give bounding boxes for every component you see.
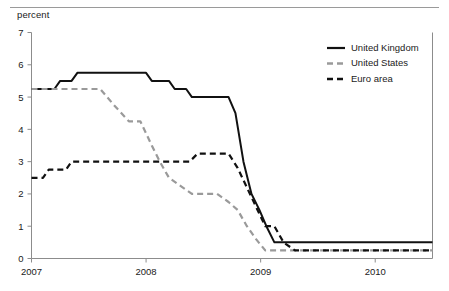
y-axis-tick-label: 6 <box>18 59 23 70</box>
x-axis-tick-label: 2009 <box>250 266 271 277</box>
y-axis-tick-label: 1 <box>18 221 23 232</box>
series-line <box>32 154 433 251</box>
legend-label: United States <box>351 57 408 68</box>
y-axis-tick-label: 3 <box>18 156 23 167</box>
y-axis-tick-group: 01234567 <box>18 27 31 264</box>
legend-label: Euro area <box>351 73 393 84</box>
y-axis-tick-label: 7 <box>18 27 23 38</box>
y-axis-tick-label: 4 <box>18 124 23 135</box>
x-axis-tick-group: 2007200820092010 <box>21 259 386 277</box>
x-axis-tick-label: 2010 <box>365 266 386 277</box>
chart-legend: United KingdomUnited StatesEuro area <box>327 42 419 84</box>
y-axis-tick-label: 0 <box>18 253 23 264</box>
data-series-group <box>32 73 433 251</box>
legend-label: United Kingdom <box>351 42 419 53</box>
x-axis-tick-label: 2007 <box>21 266 42 277</box>
line-chart-plot: 01234567 2007200820092010 United Kingdom… <box>0 0 449 291</box>
y-axis-tick-label: 5 <box>18 92 23 103</box>
y-axis-tick-label: 2 <box>18 188 23 199</box>
chart-container: percent 01234567 2007200820092010 United… <box>0 0 449 291</box>
series-line <box>32 89 433 250</box>
x-axis-tick-label: 2008 <box>136 266 157 277</box>
